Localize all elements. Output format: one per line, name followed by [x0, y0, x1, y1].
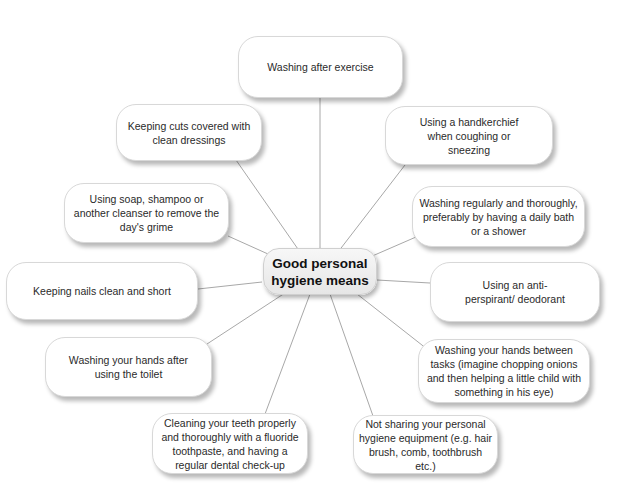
node-label: Washing your hands after using the toile…: [68, 353, 189, 381]
node-label: Using an anti-perspirant/ deodorant: [461, 278, 569, 306]
node-keeping-nails: Keeping nails clean and short: [6, 262, 198, 320]
link-anti-perspirant: [377, 280, 430, 283]
node-label: Cleaning your teeth properly and thoroug…: [157, 416, 303, 472]
node-cleaning-teeth: Cleaning your teeth properly and thoroug…: [152, 413, 308, 474]
node-not-sharing: Not sharing your personal hygiene equipm…: [353, 415, 498, 474]
node-washing-regularly: Washing regularly and thoroughly, prefer…: [412, 186, 585, 247]
link-keeping-cuts: [236, 160, 300, 252]
node-label: Using a handkerchief when coughing or sn…: [406, 115, 532, 157]
link-not-sharing: [330, 294, 373, 416]
node-label: Keeping nails clean and short: [33, 284, 171, 298]
node-using-soap: Using soap, shampoo or another cleanser …: [64, 183, 229, 243]
node-label: Washing your hands between tasks (imagin…: [425, 343, 583, 399]
node-label: Not sharing your personal hygiene equipm…: [358, 417, 493, 473]
center-title: Good personal hygiene means: [271, 255, 369, 289]
link-hands-toilet: [207, 293, 285, 344]
node-washing-hands-toilet: Washing your hands after using the toile…: [45, 337, 212, 397]
link-using-soap: [228, 236, 268, 254]
link-handkerchief: [338, 165, 405, 252]
node-anti-perspirant: Using an anti-perspirant/ deodorant: [430, 262, 600, 322]
node-keeping-cuts-covered: Keeping cuts covered with clean dressing…: [116, 104, 262, 161]
link-cleaning-teeth: [265, 294, 310, 414]
node-using-handkerchief: Using a handkerchief when coughing or sn…: [385, 106, 553, 165]
center-title-line1: Good personal: [272, 256, 367, 271]
node-label: Keeping cuts covered with clean dressing…: [127, 119, 251, 147]
node-label: Washing regularly and thoroughly, prefer…: [419, 196, 578, 238]
center-node: Good personal hygiene means: [263, 248, 377, 295]
link-hands-tasks: [357, 294, 427, 349]
node-washing-after-exercise: Washing after exercise: [238, 36, 403, 98]
center-title-line2: hygiene means: [271, 273, 369, 288]
link-keeping-nails: [198, 282, 262, 289]
node-label: Washing after exercise: [267, 60, 373, 74]
node-label: Using soap, shampoo or another cleanser …: [73, 192, 220, 234]
link-washing-regularly: [370, 237, 416, 257]
node-washing-hands-tasks: Washing your hands between tasks (imagin…: [418, 339, 590, 403]
